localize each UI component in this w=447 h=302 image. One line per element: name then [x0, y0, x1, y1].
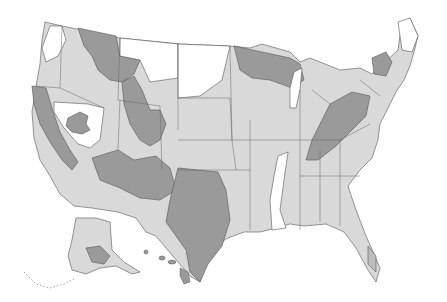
us-region-map [0, 0, 447, 302]
alaska-inset [68, 218, 140, 274]
aleutian-islands [24, 272, 76, 288]
region-texas-dark [166, 168, 230, 282]
